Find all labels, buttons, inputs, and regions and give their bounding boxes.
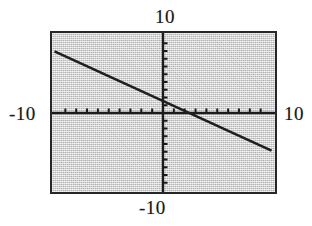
plot-canvas: [52, 33, 275, 192]
calculator-viewport: [50, 31, 277, 194]
x-axis-max-label: 10: [284, 104, 304, 123]
figure-caption: [0, 0, 1, 1]
graph-figure: 10 -10 10 -10: [0, 0, 312, 226]
y-axis-max-label: 10: [155, 7, 175, 26]
y-axis-min-label: -10: [139, 198, 166, 217]
x-axis-min-label: -10: [9, 104, 36, 123]
